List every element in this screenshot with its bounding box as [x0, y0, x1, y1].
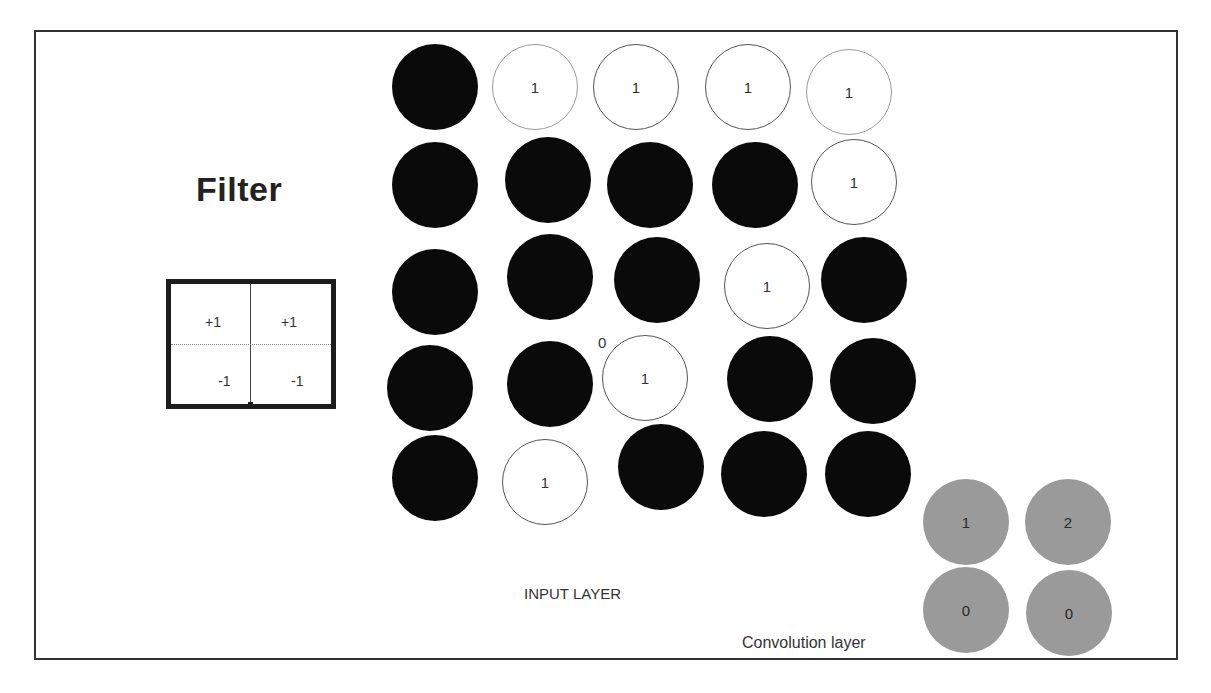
- input-node-3-1: [507, 341, 593, 427]
- conv-node-0-1: 2: [1025, 479, 1111, 565]
- input-node-2-4: [821, 237, 907, 323]
- input-node-2-3: 1: [724, 243, 810, 329]
- conv-node-1-1: 0: [1026, 570, 1112, 656]
- input-node-3-0: [387, 345, 473, 431]
- input-node-1-3: [712, 142, 798, 228]
- input-node-1-2: [607, 142, 693, 228]
- input-node-4-0: [392, 435, 478, 521]
- input-node-0-2: 1: [593, 44, 679, 130]
- filter-divider-horizontal: [171, 344, 331, 345]
- input-node-2-2: [614, 237, 700, 323]
- input-node-2-0: [392, 249, 478, 335]
- input-node-0-1: 1: [492, 44, 578, 130]
- filter-cell-0-0: +1: [205, 314, 221, 330]
- filter-divider-tick: [248, 402, 253, 407]
- convolution-layer-label: Convolution layer: [742, 634, 866, 652]
- input-node-4-3: [721, 431, 807, 517]
- input-node-3-4: [830, 338, 916, 424]
- input-node-3-2: 1: [602, 335, 688, 421]
- input-node-4-4: [825, 431, 911, 517]
- filter-title: Filter: [196, 170, 282, 209]
- filter-cell-0-1: +1: [281, 314, 297, 330]
- input-node-0-4: 1: [806, 49, 892, 135]
- input-node-0-0: [392, 44, 478, 130]
- filter-matrix: +1 +1 -1 -1: [166, 279, 336, 409]
- filter-cell-1-1: -1: [291, 373, 303, 389]
- input-node-1-0: [392, 142, 478, 228]
- conv-node-1-0: 0: [923, 567, 1009, 653]
- input-layer-label: INPUT LAYER: [524, 585, 621, 602]
- input-node-4-2: [618, 424, 704, 510]
- input-node-4-1: 1: [502, 439, 588, 525]
- input-node-1-1: [505, 137, 591, 223]
- input-node-1-4: 1: [811, 139, 897, 225]
- input-node-3-3: [727, 336, 813, 422]
- input-annotation-zero: 0: [598, 334, 606, 351]
- input-node-2-1: [507, 234, 593, 320]
- filter-cell-1-0: -1: [218, 373, 230, 389]
- conv-node-0-0: 1: [923, 479, 1009, 565]
- input-node-0-3: 1: [705, 44, 791, 130]
